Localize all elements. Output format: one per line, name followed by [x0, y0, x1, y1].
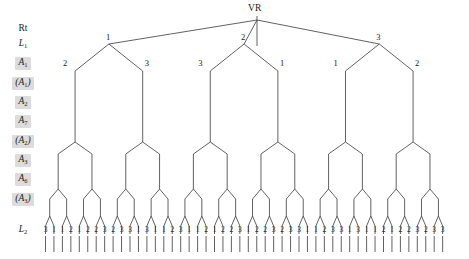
leaf-label-5: 2 [84, 226, 92, 234]
l1-edge [379, 44, 413, 71]
leaf-label-25: 2 [253, 226, 261, 234]
leaf-label-33: 2 [320, 226, 328, 234]
oct-edge [193, 142, 210, 154]
level2-label-1: 3 [145, 59, 149, 68]
level1-label-0: 1 [106, 33, 110, 42]
root-edge [109, 20, 257, 44]
leaf-label-17: 1 [185, 226, 193, 234]
root-edge [244, 20, 257, 44]
leaf-label-10: 3 [126, 226, 134, 234]
oct-edge [143, 142, 160, 154]
leaf-label-20: 1 [211, 226, 219, 234]
leaf-label-26: 2 [261, 226, 269, 234]
leaf-label-46: 3 [430, 226, 438, 234]
l1-edge [210, 44, 244, 71]
l1-edge [75, 44, 109, 71]
quad-edge [126, 189, 134, 199]
oct-edge [345, 142, 362, 154]
level2-label-5: 2 [415, 59, 419, 68]
leaf-label-39: 1 [371, 226, 379, 234]
quad-edge [151, 189, 159, 199]
oct-edge [396, 142, 413, 154]
quad-edge [219, 189, 227, 199]
oct-edge [261, 142, 278, 154]
oct-edge [413, 142, 430, 154]
leaf-label-45: 2 [422, 226, 430, 234]
quad-edge [261, 189, 269, 199]
quad-edge [193, 189, 201, 199]
level2-label-0: 2 [63, 59, 67, 68]
oct-edge [75, 142, 92, 154]
root-edge [257, 20, 379, 44]
leaf-label-28: 2 [278, 226, 286, 234]
quad-edge [422, 189, 430, 199]
root-node-label: VR [248, 3, 262, 13]
quad-edge [92, 189, 100, 199]
quad-edge [160, 189, 168, 199]
leaf-label-16: 3 [177, 226, 185, 234]
leaf-label-36: 1 [346, 226, 354, 234]
quad-edge [50, 189, 58, 199]
leaf-label-43: 2 [405, 226, 413, 234]
leaf-label-4: 1 [75, 226, 83, 234]
leaf-label-27: 3 [270, 226, 278, 234]
leaf-label-9: 3 [118, 226, 126, 234]
leaf-label-23: 3 [236, 226, 244, 234]
level2-label-3: 1 [280, 59, 284, 68]
leaf-label-13: 1 [151, 226, 159, 234]
leaf-label-21: 2 [219, 226, 227, 234]
leaf-label-7: 3 [101, 226, 109, 234]
quad-edge [396, 189, 404, 199]
leaf-label-2: 1 [58, 226, 66, 234]
leaf-label-40: 2 [380, 226, 388, 234]
leaf-label-24: 1 [244, 226, 252, 234]
oct-edge [58, 142, 75, 154]
quad-edge [117, 189, 125, 199]
l1-edge [244, 44, 278, 71]
quad-edge [58, 189, 66, 199]
leaf-label-3: 2 [67, 226, 75, 234]
quad-edge [329, 189, 337, 199]
oct-edge [329, 142, 346, 154]
quad-edge [388, 189, 396, 199]
leaf-label-37: 3 [354, 226, 362, 234]
quad-edge [320, 189, 328, 199]
l1-edge [345, 44, 379, 71]
leaf-label-44: 3 [413, 226, 421, 234]
oct-edge [210, 142, 227, 154]
leaf-label-32: 1 [312, 226, 320, 234]
level2-label-2: 3 [198, 59, 202, 68]
leaf-label-41: 1 [388, 226, 396, 234]
leaf-label-18: 1 [194, 226, 202, 234]
tree-graphic [0, 0, 469, 259]
quad-edge [354, 189, 362, 199]
quad-edge [286, 189, 294, 199]
quad-edge [185, 189, 193, 199]
leaf-label-14: 1 [160, 226, 168, 234]
leaf-label-8: 2 [109, 226, 117, 234]
leaf-label-11: 1 [134, 226, 142, 234]
level1-label-1: 2 [241, 33, 245, 42]
leaf-label-29: 3 [287, 226, 295, 234]
quad-edge [295, 189, 303, 199]
leaf-label-0: 3 [42, 226, 50, 234]
leaf-label-35: 3 [337, 226, 345, 234]
quad-edge [84, 189, 92, 199]
oct-edge [126, 142, 143, 154]
oct-edge [278, 142, 295, 154]
leaf-label-1: 1 [50, 226, 58, 234]
leaf-label-47: 3 [439, 226, 447, 234]
leaf-label-22: 2 [227, 226, 235, 234]
leaf-label-31: 1 [303, 226, 311, 234]
level1-label-2: 3 [376, 33, 380, 42]
level2-label-4: 1 [333, 59, 337, 68]
quad-edge [253, 189, 261, 199]
l1-edge [109, 44, 143, 71]
leaf-label-30: 3 [295, 226, 303, 234]
leaf-label-38: 1 [363, 226, 371, 234]
leaf-label-42: 2 [396, 226, 404, 234]
tree-diagram: RtL1A1(A1)A2A7(A2)A3A6(A3)L2 VR123233112… [0, 0, 469, 259]
quad-edge [362, 189, 370, 199]
leaf-label-12: 3 [143, 226, 151, 234]
leaf-label-34: 3 [329, 226, 337, 234]
